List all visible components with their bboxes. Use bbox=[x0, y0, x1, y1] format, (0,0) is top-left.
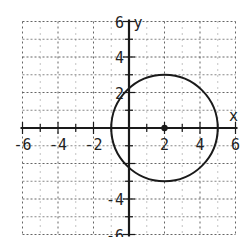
x-tick-label: 6 bbox=[231, 136, 240, 154]
axes bbox=[21, 20, 238, 237]
y-tick-label: -4 bbox=[106, 191, 124, 209]
x-tick-label: -4 bbox=[49, 136, 67, 154]
y-axis-label: y bbox=[133, 14, 142, 32]
y-tick-label: 6 bbox=[115, 14, 124, 32]
x-tick-label: 4 bbox=[195, 136, 204, 154]
center-point-marker bbox=[161, 125, 167, 131]
tick-labels: -6-4-2246642-4-6 bbox=[13, 14, 240, 238]
coordinate-plane: -6-4-2246642-4-6 x y bbox=[0, 0, 250, 237]
x-tick-label: 2 bbox=[160, 136, 169, 154]
x-tick-label: -2 bbox=[84, 136, 102, 154]
y-tick-label: -6 bbox=[106, 227, 124, 238]
y-tick-label: 4 bbox=[115, 49, 124, 67]
x-tick-label: -6 bbox=[13, 136, 31, 154]
x-axis-label: x bbox=[229, 107, 238, 125]
